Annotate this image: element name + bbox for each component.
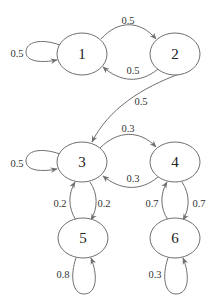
- node-3: 3: [57, 142, 107, 182]
- edge-label-6-4: 0.7: [145, 198, 158, 209]
- edge-5-5: [73, 258, 96, 294]
- node-4: 4: [150, 142, 200, 182]
- edge-6-4: [162, 182, 168, 220]
- edge-1-1: [26, 41, 60, 61]
- edge-2-3: [92, 73, 182, 142]
- edge-label-4-6: 0.7: [192, 198, 205, 209]
- edge-label-5-3: 0.2: [53, 198, 66, 209]
- node-label-5: 5: [79, 230, 87, 246]
- node-6: 6: [150, 218, 200, 258]
- edge-label-5-5: 0.8: [56, 269, 69, 280]
- edge-label-1-2: 0.5: [121, 15, 134, 26]
- edge-3-5: [90, 182, 96, 220]
- edge-3-3: [26, 150, 60, 170]
- edge-4-6: [182, 182, 188, 220]
- edge-label-3-4: 0.3: [121, 123, 134, 134]
- node-1: 1: [57, 33, 107, 75]
- edge-3-4: [100, 134, 156, 148]
- edge-label-1-1: 0.5: [10, 48, 23, 59]
- node-5: 5: [58, 218, 108, 258]
- edge-label-4-3: 0.3: [126, 173, 139, 184]
- node-label-6: 6: [171, 230, 179, 246]
- node-label-1: 1: [78, 46, 86, 62]
- node-2: 2: [150, 33, 200, 75]
- edge-label-3-3: 0.5: [10, 158, 23, 169]
- edge-label-3-5: 0.2: [97, 198, 110, 209]
- edge-label-6-6: 0.3: [148, 269, 161, 280]
- edge-5-3: [70, 182, 76, 220]
- node-label-3: 3: [78, 154, 86, 170]
- edge-1-2: [101, 25, 156, 39]
- edge-label-2-3: 0.5: [134, 96, 147, 107]
- markov-chain-diagram: 0.5 0.5 0.5 0.5 0.5 0.3 0.3 0.2 0.2 0.7 …: [0, 0, 214, 306]
- node-label-2: 2: [171, 46, 179, 62]
- edge-6-6: [165, 258, 188, 294]
- edge-label-2-1: 0.5: [126, 65, 139, 76]
- node-label-4: 4: [171, 154, 179, 170]
